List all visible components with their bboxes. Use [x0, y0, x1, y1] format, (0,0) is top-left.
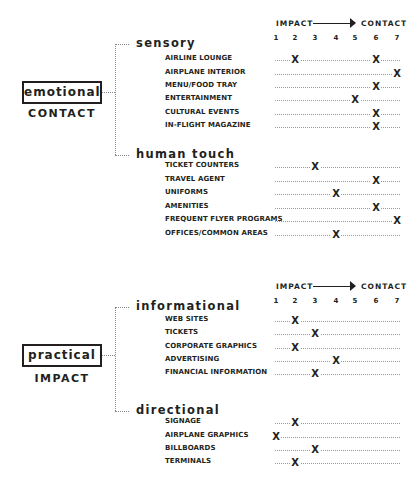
rating-line — [275, 334, 400, 335]
scale-number: 5 — [351, 297, 359, 306]
bracket-line — [115, 44, 116, 155]
rating-mark: X — [371, 55, 381, 65]
row-label: AIRLINE LOUNGE — [165, 54, 232, 63]
rating-mark: X — [331, 189, 341, 199]
scale-number: 2 — [291, 297, 299, 306]
scale-number: 5 — [351, 34, 359, 43]
rating-mark: X — [392, 69, 402, 79]
scale-number: 1 — [272, 297, 280, 306]
bracket-tick — [115, 411, 129, 412]
row-label: AIRPLANE GRAPHICS — [165, 431, 249, 440]
row-label: ENTERTAINMENT — [165, 94, 232, 103]
rating-line — [275, 181, 400, 182]
bracket-tick — [115, 44, 129, 45]
row-label: BILLBOARDS — [165, 444, 216, 453]
group-box-1: practical — [22, 344, 102, 367]
bracket-tick — [115, 307, 129, 308]
rating-line — [275, 221, 400, 222]
rating-mark: X — [371, 82, 381, 92]
rating-line — [275, 114, 400, 115]
rating-line — [275, 87, 400, 88]
row-label: UNIFORMS — [165, 188, 208, 197]
category-heading: directional — [136, 404, 220, 417]
rating-mark: X — [310, 369, 320, 379]
rating-mark: X — [290, 418, 300, 428]
rating-line — [275, 437, 400, 438]
scale-number: 1 — [272, 34, 280, 43]
rating-mark: X — [290, 458, 300, 468]
rating-mark: X — [290, 343, 300, 353]
category-heading: informational — [136, 300, 241, 313]
row-label: IN-FLIGHT MAGAZINE — [165, 121, 251, 130]
rating-mark: X — [371, 109, 381, 119]
arrow-right-icon — [350, 18, 356, 28]
connector-line — [102, 355, 115, 356]
rating-line — [275, 127, 400, 128]
rating-mark: X — [310, 445, 320, 455]
scale-number: 6 — [372, 34, 380, 43]
rating-mark: X — [310, 329, 320, 339]
bracket-line — [115, 307, 116, 411]
scale-number: 7 — [393, 34, 401, 43]
row-label: AMENITIES — [165, 202, 209, 211]
row-label: FREQUENT FLYER PROGRAMS — [165, 215, 283, 224]
row-label: TRAVEL AGENT — [165, 175, 225, 184]
group-box-0: emotional — [22, 81, 102, 104]
rating-mark: X — [371, 203, 381, 213]
scale-impact-label: IMPACT — [276, 19, 314, 28]
scale-number: 7 — [393, 297, 401, 306]
scale-number: 6 — [372, 297, 380, 306]
row-label: TICKET COUNTERS — [165, 161, 239, 170]
row-label: TICKETS — [165, 328, 198, 337]
row-label: CULTURAL EVENTS — [165, 108, 239, 117]
scale-impact-label: IMPACT — [276, 282, 314, 291]
rating-mark: X — [271, 432, 281, 442]
row-label: SIGNAGE — [165, 417, 201, 426]
rating-mark: X — [331, 356, 341, 366]
row-label: OFFICES/COMMON AREAS — [165, 229, 268, 238]
row-label: FINANCIAL INFORMATION — [165, 368, 267, 377]
group-sub-label: IMPACT — [22, 372, 102, 385]
scale-number: 2 — [291, 34, 299, 43]
rating-line — [275, 100, 400, 101]
group-sub-label: CONTACT — [22, 107, 102, 120]
row-label: WEB SITES — [165, 315, 208, 324]
rating-mark: X — [350, 95, 360, 105]
row-label: MENU/FOOD TRAY — [165, 81, 237, 90]
scale-number: 4 — [332, 297, 340, 306]
scale-number: 4 — [332, 34, 340, 43]
category-heading: sensory — [136, 37, 196, 50]
scale-contact-label: CONTACT — [361, 19, 407, 28]
connector-line — [102, 92, 115, 93]
category-heading: human touch — [136, 148, 235, 161]
rating-line — [275, 208, 400, 209]
scale-number: 3 — [311, 34, 319, 43]
rating-line — [275, 167, 400, 168]
bracket-tick — [115, 155, 129, 156]
rating-line — [275, 374, 400, 375]
scale-number: 3 — [311, 297, 319, 306]
rating-mark: X — [371, 122, 381, 132]
scale-arrow-line — [313, 286, 351, 287]
row-label: CORPORATE GRAPHICS — [165, 342, 257, 351]
scale-contact-label: CONTACT — [361, 282, 407, 291]
rating-line — [275, 450, 400, 451]
rating-mark: X — [290, 316, 300, 326]
row-label: ADVERTISING — [165, 355, 219, 364]
rating-mark: X — [310, 162, 320, 172]
row-label: AIRPLANE INTERIOR — [165, 68, 246, 77]
scale-arrow-line — [313, 23, 351, 24]
rating-line — [275, 74, 400, 75]
row-label: TERMINALS — [165, 457, 211, 466]
rating-mark: X — [371, 176, 381, 186]
rating-mark: X — [331, 230, 341, 240]
arrow-right-icon — [350, 281, 356, 291]
rating-mark: X — [392, 216, 402, 226]
rating-mark: X — [290, 55, 300, 65]
